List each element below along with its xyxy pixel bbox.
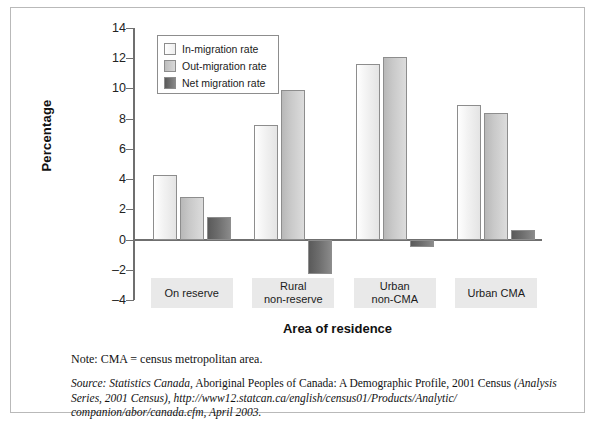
bar-0-3: [457, 105, 481, 239]
category-label-text: Urban CMA: [468, 287, 525, 300]
bar-2-2: [410, 240, 434, 248]
figure-panel: 14121086420–2–4 Percentage In-migration …: [10, 7, 585, 413]
y-axis-tick-label: –2: [96, 265, 126, 275]
y-axis-tick: [126, 119, 134, 120]
source-text: Source: Statistics Canada, Aboriginal Pe…: [71, 376, 561, 420]
category-label-text: Ruralnon-reserve: [264, 280, 323, 306]
category-label-2: Urbannon-CMA: [354, 278, 436, 308]
notes-block: Note: CMA = census metropolitan area. So…: [71, 352, 561, 420]
y-axis-tick: [126, 149, 134, 150]
bar-1-1: [281, 90, 305, 240]
y-axis-tick-label: 2: [96, 204, 126, 214]
legend-item: In-migration rate: [164, 41, 272, 57]
y-axis-tick: [126, 88, 134, 89]
bar-0-1: [254, 125, 278, 240]
bar-0-2: [356, 64, 380, 239]
bar-1-3: [484, 113, 508, 240]
y-axis-title: Percentage: [39, 76, 54, 196]
legend: In-migration rate Out-migration rate Net…: [157, 35, 279, 94]
legend-label-in-migration: In-migration rate: [182, 43, 258, 55]
source-publisher: Statistics Canada,: [109, 377, 193, 389]
bar-2-1: [308, 240, 332, 275]
y-axis-tick-label: 14: [96, 23, 126, 33]
x-axis-title: Area of residence: [133, 321, 542, 336]
category-label-1: Ruralnon-reserve: [252, 278, 334, 308]
y-axis-tick: [126, 270, 134, 271]
category-label-0: On reserve: [151, 278, 233, 308]
y-axis-tick-label: 8: [96, 114, 126, 124]
note-text: Note: CMA = census metropolitan area.: [71, 352, 561, 367]
category-label-3: Urban CMA: [455, 278, 537, 308]
y-axis-tick-label: 10: [96, 83, 126, 93]
bar-2-3: [511, 230, 535, 239]
y-axis-line: [133, 28, 135, 300]
y-axis-tick: [126, 58, 134, 59]
y-axis-tick-label: 0: [96, 235, 126, 245]
source-label: Source:: [71, 377, 106, 389]
legend-item: Net migration rate: [164, 75, 272, 91]
y-axis-tick-label: 6: [96, 144, 126, 154]
legend-swatch-out-migration: [164, 60, 176, 72]
bar-1-2: [383, 57, 407, 240]
source-title: Aboriginal Peoples of Canada: A Demograp…: [193, 377, 511, 389]
y-axis-tick: [126, 28, 134, 29]
legend-item: Out-migration rate: [164, 58, 272, 74]
legend-swatch-in-migration: [164, 43, 176, 55]
bar-2-0: [207, 217, 231, 240]
legend-swatch-net-migration: [164, 77, 176, 89]
bar-0-0: [153, 175, 177, 240]
y-axis-tick-label: –4: [96, 295, 126, 305]
y-axis-tick-label: 12: [96, 53, 126, 63]
y-axis-tick: [126, 209, 134, 210]
legend-label-net-migration: Net migration rate: [182, 77, 265, 89]
category-label-text: Urbannon-CMA: [372, 280, 418, 306]
legend-label-out-migration: Out-migration rate: [182, 60, 267, 72]
category-label-text: On reserve: [165, 287, 219, 300]
y-axis-tick-label: 4: [96, 174, 126, 184]
y-axis-tick: [126, 179, 134, 180]
bar-1-0: [180, 197, 204, 239]
y-axis-tick: [126, 240, 134, 241]
y-axis-tick: [126, 300, 134, 301]
